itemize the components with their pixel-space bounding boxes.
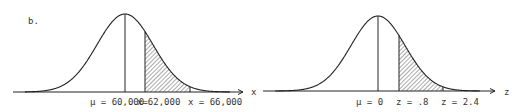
left-x2-label: x = 66,000 <box>188 97 242 107</box>
left-x1-label: x=62,000 <box>137 97 180 107</box>
right-z1-label: z = .8 <box>396 97 429 107</box>
left-normal-curve <box>13 14 243 95</box>
right-z2-label: z = 2.4 <box>441 97 479 107</box>
right-normal-curve <box>263 16 495 94</box>
right-axis-label: z <box>504 87 509 97</box>
normal-curves-figure <box>0 0 518 112</box>
right-mu-label: μ = 0 <box>356 97 383 107</box>
left-axis-label: x <box>251 87 256 97</box>
part-label: b. <box>28 16 39 26</box>
